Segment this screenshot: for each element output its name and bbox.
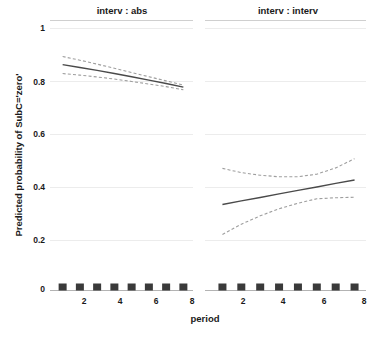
rug-mark — [256, 284, 264, 291]
rug-mark — [93, 284, 101, 291]
xtick-left-4: 4 — [118, 296, 123, 306]
chart-figure: interv : abs interv : interv 1 0.8 0.6 0… — [0, 0, 372, 343]
strip-label-right: interv : interv — [258, 5, 319, 16]
xtick-left-2: 2 — [82, 296, 87, 306]
rug-mark — [162, 284, 170, 291]
xtick-left-6: 6 — [154, 296, 159, 306]
rug-mark — [128, 284, 136, 291]
xtick-right-6: 6 — [322, 296, 327, 306]
y-axis-title: Predicted probability of SubC='zero' — [13, 73, 24, 236]
rug-mark — [59, 284, 67, 291]
ytick-0: 0 — [40, 284, 45, 294]
rug-mark — [145, 284, 153, 291]
rug-mark — [351, 284, 359, 291]
xtick-right-2: 2 — [241, 296, 246, 306]
rug-mark — [179, 284, 187, 291]
rug-mark — [76, 284, 84, 291]
rug-mark — [237, 284, 245, 291]
strip-label-left: interv : abs — [97, 5, 148, 16]
x-axis-title: period — [190, 313, 219, 324]
trellis-plot: interv : abs interv : interv 1 0.8 0.6 0… — [0, 0, 372, 343]
xtick-right-8: 8 — [362, 296, 367, 306]
rug-mark — [218, 284, 226, 291]
ytick-04: 0.4 — [33, 182, 45, 192]
rug-mark — [332, 284, 340, 291]
rug-mark — [313, 284, 321, 291]
rug-mark — [275, 284, 283, 291]
ytick-08: 0.8 — [33, 77, 45, 87]
plot-background — [0, 0, 372, 343]
ytick-06: 0.6 — [33, 129, 45, 139]
rug-mark — [294, 284, 302, 291]
ytick-02: 0.2 — [33, 235, 45, 245]
xtick-left-8: 8 — [190, 296, 195, 306]
rug-mark — [110, 284, 118, 291]
xtick-right-4: 4 — [281, 296, 286, 306]
ytick-1: 1 — [40, 23, 45, 33]
